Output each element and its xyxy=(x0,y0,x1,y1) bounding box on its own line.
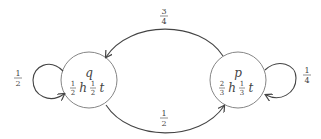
svg-text:3: 3 xyxy=(161,7,166,16)
svg-text:3: 3 xyxy=(240,89,244,97)
svg-text:t: t xyxy=(249,81,254,95)
node-p-label: p xyxy=(234,66,242,80)
svg-text:h: h xyxy=(79,81,87,95)
svg-text:1: 1 xyxy=(304,66,309,75)
svg-text:4: 4 xyxy=(304,76,309,85)
node-q-label: q xyxy=(85,66,93,80)
edge-p-to-q: 3 4 xyxy=(106,7,223,57)
node-p: p 2 3 h 1 3 t xyxy=(210,52,266,108)
svg-text:2: 2 xyxy=(161,119,166,128)
svg-text:1: 1 xyxy=(240,80,244,88)
svg-text:1: 1 xyxy=(91,80,95,88)
markov-diagram: q 1 2 h 1 2 t p 2 3 h 1 3 t 3 4 1 2 xyxy=(0,0,321,139)
svg-text:2: 2 xyxy=(91,89,95,97)
node-q: q 1 2 h 1 2 t xyxy=(61,52,117,108)
svg-text:t: t xyxy=(100,81,105,95)
svg-text:1: 1 xyxy=(15,69,20,78)
svg-text:2: 2 xyxy=(15,79,20,88)
self-loop-q: 1 2 xyxy=(14,64,64,98)
svg-text:1: 1 xyxy=(71,80,75,88)
svg-text:2: 2 xyxy=(71,89,75,97)
self-loop-p: 1 4 xyxy=(265,64,311,98)
svg-text:2: 2 xyxy=(220,80,224,88)
svg-text:4: 4 xyxy=(161,17,166,26)
edge-q-to-p: 1 2 xyxy=(106,105,224,133)
svg-text:3: 3 xyxy=(220,89,224,97)
svg-text:h: h xyxy=(228,81,236,95)
svg-text:1: 1 xyxy=(161,109,166,118)
